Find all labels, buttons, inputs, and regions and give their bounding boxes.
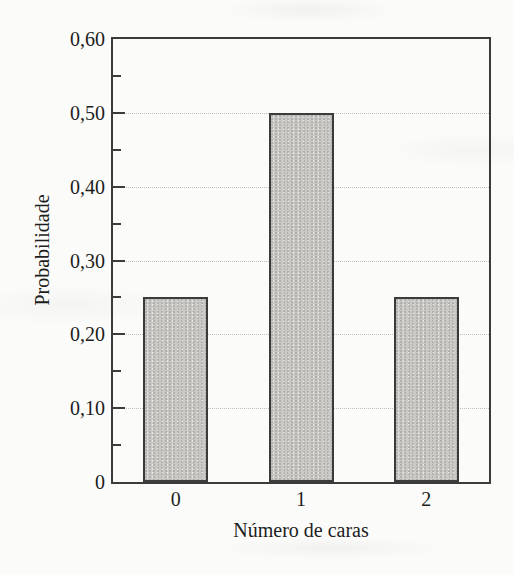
x-tick-label: 2 xyxy=(386,487,466,511)
y-minor-tick xyxy=(113,444,121,446)
bar xyxy=(394,297,459,482)
y-major-tick xyxy=(113,186,125,188)
y-tick-label: 0 xyxy=(35,470,105,494)
chart-figure: 00,100,200,300,400,500,60 012 Probabilid… xyxy=(0,0,514,574)
y-major-tick xyxy=(113,407,125,409)
y-major-tick xyxy=(113,260,125,262)
y-minor-tick xyxy=(113,75,121,77)
y-major-tick xyxy=(113,112,125,114)
y-axis-title: Probabilidade xyxy=(30,150,54,350)
y-minor-tick xyxy=(113,370,121,372)
y-minor-tick xyxy=(113,149,121,151)
bar xyxy=(269,113,334,482)
y-tick-label: 0,60 xyxy=(35,27,105,51)
y-major-tick xyxy=(113,333,125,335)
plot-area xyxy=(111,37,491,484)
y-tick-label: 0,50 xyxy=(35,101,105,125)
x-tick-label: 1 xyxy=(261,487,341,511)
x-axis-title: Número de caras xyxy=(151,517,451,543)
y-minor-tick xyxy=(113,296,121,298)
y-minor-tick xyxy=(113,223,121,225)
bar xyxy=(143,297,208,482)
x-tick-label: 0 xyxy=(136,487,216,511)
y-tick-label: 0,10 xyxy=(35,396,105,420)
